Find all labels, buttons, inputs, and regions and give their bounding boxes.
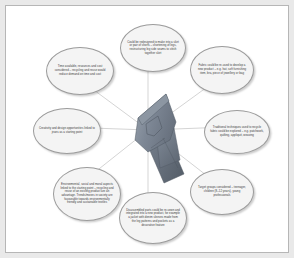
bubble-environmental[interactable]: Environmental, social and moral aspects …: [53, 167, 121, 221]
bubble-creativity-text: Creativity and design opportunities link…: [34, 127, 100, 134]
diagram-canvas: Could be redesigned to make into a skirt…: [6, 6, 288, 252]
bubble-disassembled-parts[interactable]: Disassembled parts could be re-sewn and …: [119, 192, 187, 244]
bubble-time-cost[interactable]: Time available, resources and cost consi…: [46, 47, 114, 95]
bubble-traditional-techniques[interactable]: Traditional techniques used to recycle f…: [204, 110, 270, 154]
bubble-traditional-techniques-text: Traditional techniques used to recycle f…: [205, 126, 269, 137]
bubble-fabric-reuse[interactable]: Fabric could be re-used to develop a new…: [190, 46, 254, 94]
bubble-target-groups-text: Target groups considered – teenager, chi…: [191, 186, 253, 197]
bubble-time-cost-text: Time available, resources and cost consi…: [47, 65, 113, 76]
center-jeans-image: [118, 88, 192, 186]
page-background: Could be redesigned to make into a skirt…: [0, 0, 294, 258]
bubble-target-groups[interactable]: Target groups considered – teenager, chi…: [190, 169, 254, 215]
diagram-frame: Could be redesigned to make into a skirt…: [5, 5, 289, 253]
bubble-fabric-reuse-text: Fabric could be re-used to develop a new…: [191, 64, 253, 75]
folded-jeans-illustration: [118, 88, 192, 186]
bubble-redesign-text: Could be redesigned to make into a skirt…: [121, 41, 185, 56]
bubble-redesign[interactable]: Could be redesigned to make into a skirt…: [120, 24, 186, 72]
bubble-disassembled-parts-text: Disassembled parts could be re-sewn and …: [120, 209, 186, 227]
bubble-environmental-text: Environmental, social and moral aspects …: [54, 183, 120, 205]
bubble-creativity[interactable]: Creativity and design opportunities link…: [33, 108, 101, 154]
